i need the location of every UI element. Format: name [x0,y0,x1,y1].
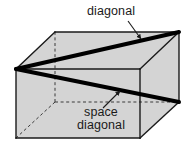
label-diagonal: diagonal [87,5,135,18]
label-space-diagonal: space diagonal [64,106,138,132]
prism-diagram: diagonal space diagonal [0,0,191,149]
label-space-diagonal-line2: diagonal [64,119,138,132]
